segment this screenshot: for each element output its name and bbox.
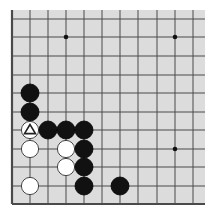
white-stone bbox=[21, 140, 38, 157]
black-stone bbox=[75, 121, 93, 139]
white-stone bbox=[57, 158, 74, 175]
black-stone bbox=[75, 177, 93, 195]
black-stone bbox=[21, 84, 39, 102]
star-point bbox=[173, 147, 178, 152]
white-stone bbox=[21, 177, 38, 194]
star-point bbox=[64, 35, 69, 40]
black-stone bbox=[75, 140, 93, 158]
black-stone bbox=[21, 103, 39, 121]
black-stone bbox=[111, 177, 129, 195]
black-stone bbox=[75, 158, 93, 176]
star-point bbox=[173, 35, 178, 40]
black-stone bbox=[39, 121, 57, 139]
black-stone bbox=[57, 121, 75, 139]
white-stone bbox=[57, 140, 74, 157]
board-surface bbox=[12, 10, 205, 204]
go-board-diagram bbox=[0, 0, 216, 211]
